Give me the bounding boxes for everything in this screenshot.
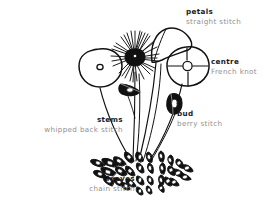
label-centre-title: centre [211,58,257,66]
label-stems-sub: whipped back stitch [18,126,123,134]
label-petals-sub: straight stitch [186,18,241,26]
label-bud: bud berry stitch [177,110,222,128]
label-leaves: leaves chain stitch [50,175,135,193]
label-bud-sub: berry stitch [177,120,222,128]
stitch-diagram-page: petals straight stitch centre French kno… [0,0,277,213]
label-petals: petals straight stitch [186,8,241,26]
round-flower-left [79,49,122,87]
fan-petal [152,28,192,62]
label-stems: stems whipped back stitch [18,116,123,134]
label-leaves-sub: chain stitch [50,185,135,193]
label-leaves-title: leaves [50,175,135,183]
label-centre: centre French knot [211,58,257,76]
bud-left [119,84,140,96]
flower-illustration [0,0,277,213]
quartered-flower [167,47,209,86]
label-bud-title: bud [177,110,222,118]
label-stems-title: stems [18,116,123,124]
label-centre-sub: French knot [211,68,257,76]
label-petals-title: petals [186,8,241,16]
